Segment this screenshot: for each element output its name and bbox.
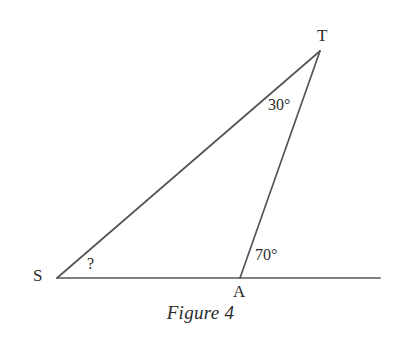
vertex-label-s: S (33, 267, 42, 284)
figure-caption: Figure 4 (0, 303, 401, 322)
geometry-drawing (0, 0, 401, 347)
vertex-label-t: T (317, 27, 327, 44)
angle-label-30-degrees: 30° (268, 97, 290, 113)
angle-label-unknown: ? (87, 256, 94, 272)
vertex-label-a: A (233, 283, 245, 300)
angle-label-70-degrees: 70° (255, 247, 277, 263)
figure-container: S A T 30° 70° ? Figure 4 (0, 0, 401, 347)
